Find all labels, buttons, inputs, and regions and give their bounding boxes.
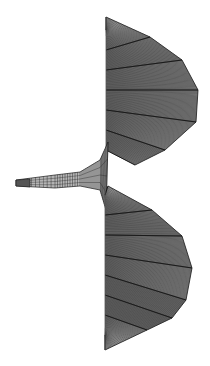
lower-lobe xyxy=(105,186,192,350)
twist-neck xyxy=(16,142,108,210)
upper-lobe xyxy=(106,17,198,165)
wireframe-mesh xyxy=(0,0,210,366)
